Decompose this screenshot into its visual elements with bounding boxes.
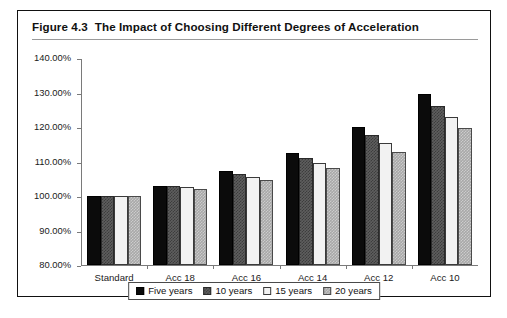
legend-label: 15 years	[275, 285, 312, 296]
bar-acc-12-five-years	[352, 127, 366, 265]
x-tick	[280, 265, 281, 269]
figure-number: Figure 4.3	[32, 20, 88, 33]
bar-acc-10-15-years	[445, 117, 459, 265]
legend-swatch-icon	[136, 287, 144, 295]
x-tick	[346, 265, 347, 269]
bar-acc-12-20-years	[392, 152, 406, 265]
figure-title-text: The Impact of Choosing Different Degrees…	[95, 20, 419, 33]
bar-acc-16-five-years	[219, 171, 233, 265]
bar-acc-18-10-years	[167, 186, 181, 265]
bar-acc-10-10-years	[431, 106, 445, 265]
bar-standard-five-years	[87, 196, 101, 265]
y-tick-label: 120.00%	[34, 121, 71, 132]
bar-acc-16-10-years	[233, 174, 247, 265]
y-tick: 120.00%	[77, 128, 81, 129]
y-tick-label: 130.00%	[34, 87, 71, 98]
bar-standard-10-years	[101, 196, 115, 265]
legend-item-20-years[interactable]: 20 years	[323, 285, 372, 296]
y-tick-label: 110.00%	[35, 156, 71, 167]
bar-acc-18-20-years	[194, 189, 208, 265]
y-tick: 130.00%	[77, 94, 81, 95]
chart-plot-area: 140.00%130.00%120.00%110.00%100.00%90.00…	[81, 59, 478, 266]
bar-acc-12-15-years	[379, 143, 393, 265]
y-tick: 80.00%	[77, 266, 81, 267]
y-tick: 90.00%	[77, 232, 81, 233]
legend-label: 20 years	[335, 285, 372, 296]
bar-acc-12-10-years	[365, 135, 379, 265]
y-tick-label: 100.00%	[34, 190, 71, 201]
bar-acc-14-five-years	[286, 153, 300, 265]
y-tick: 100.00%	[77, 197, 81, 198]
chart-legend: Five years10 years15 years20 years	[128, 282, 380, 300]
y-tick: 140.00%	[77, 59, 81, 60]
title-divider	[32, 39, 478, 40]
y-tick-label: 90.00%	[39, 225, 71, 236]
figure-frame: Figure 4.3The Impact of Choosing Differe…	[17, 10, 491, 297]
legend-swatch-icon	[203, 287, 211, 295]
bar-standard-15-years	[114, 196, 128, 265]
legend-item-five-years[interactable]: Five years	[136, 285, 192, 296]
bar-acc-16-20-years	[260, 180, 274, 265]
bar-acc-18-15-years	[180, 187, 194, 265]
legend-label: Five years	[148, 285, 192, 296]
y-axis	[81, 59, 82, 266]
x-tick	[412, 265, 413, 269]
bar-acc-18-five-years	[153, 186, 167, 265]
bar-acc-14-15-years	[313, 163, 327, 265]
y-tick: 110.00%	[77, 163, 81, 164]
bar-acc-10-five-years	[418, 94, 432, 265]
bar-acc-14-10-years	[299, 158, 313, 265]
y-tick-label: 80.00%	[39, 259, 71, 270]
legend-item-15-years[interactable]: 15 years	[263, 285, 312, 296]
category-label-acc-10: Acc 10	[430, 272, 459, 283]
legend-swatch-icon	[323, 287, 331, 295]
bar-acc-16-15-years	[246, 177, 260, 265]
legend-swatch-icon	[263, 287, 271, 295]
y-tick-label: 140.00%	[34, 52, 71, 63]
legend-item-10-years[interactable]: 10 years	[203, 285, 252, 296]
x-tick	[213, 265, 214, 269]
legend-label: 10 years	[215, 285, 252, 296]
x-tick	[147, 265, 148, 269]
bar-acc-14-20-years	[326, 168, 340, 265]
bar-acc-10-20-years	[458, 128, 472, 265]
bar-standard-20-years	[128, 196, 142, 265]
figure-title: Figure 4.3The Impact of Choosing Differe…	[32, 20, 478, 33]
